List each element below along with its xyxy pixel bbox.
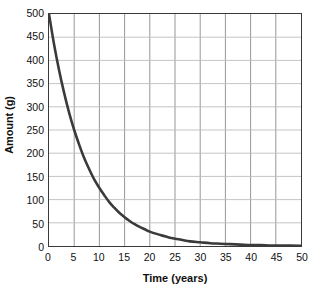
x-tick-label: 50 <box>287 252 310 263</box>
x-tick-label: 30 <box>185 252 215 263</box>
x-tick-label: 15 <box>109 252 139 263</box>
y-tick-label: 50 <box>16 218 44 229</box>
x-tick-label: 10 <box>84 252 114 263</box>
y-tick-label: 400 <box>16 55 44 66</box>
y-tick-label: 500 <box>16 8 44 19</box>
y-tick-label: 250 <box>16 125 44 136</box>
plot-svg <box>49 14 301 246</box>
y-axis-title-text: Amount (g) <box>3 96 15 154</box>
y-tick-label: 0 <box>16 242 44 253</box>
y-tick-label: 350 <box>16 78 44 89</box>
x-axis-title: Time (years) <box>48 272 302 284</box>
x-tick-label: 45 <box>262 252 292 263</box>
y-tick-label: 200 <box>16 148 44 159</box>
x-tick-label: 35 <box>211 252 241 263</box>
x-tick-label: 40 <box>236 252 266 263</box>
y-axis-title: Amount (g) <box>0 0 18 250</box>
y-tick-label: 450 <box>16 31 44 42</box>
decay-chart-figure: Amount (g) 05010015020025030035040045050… <box>0 0 310 297</box>
y-tick-label: 300 <box>16 101 44 112</box>
x-tick-label: 0 <box>33 252 63 263</box>
plot-area <box>48 13 302 247</box>
x-tick-label: 25 <box>160 252 190 263</box>
y-axis-tick-labels: 050100150200250300350400450500 <box>14 0 44 297</box>
y-tick-label: 100 <box>16 195 44 206</box>
x-tick-label: 20 <box>135 252 165 263</box>
y-tick-label: 150 <box>16 172 44 183</box>
x-tick-label: 5 <box>58 252 88 263</box>
